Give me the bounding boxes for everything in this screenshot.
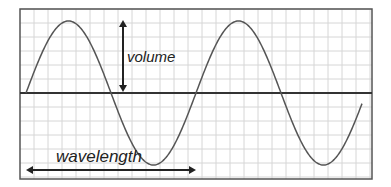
wave-diagram: volume wavelength	[0, 0, 391, 187]
volume-label: volume	[127, 48, 175, 65]
wavelength-label: wavelength	[56, 147, 142, 167]
volume-arrow	[119, 20, 127, 92]
wavelength-arrow	[26, 166, 196, 174]
